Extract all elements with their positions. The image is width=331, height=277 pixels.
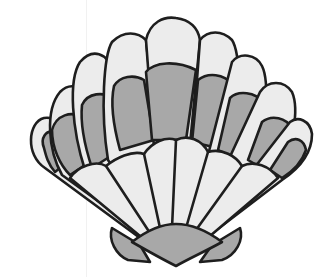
scallop-shell-illustration bbox=[0, 0, 331, 277]
